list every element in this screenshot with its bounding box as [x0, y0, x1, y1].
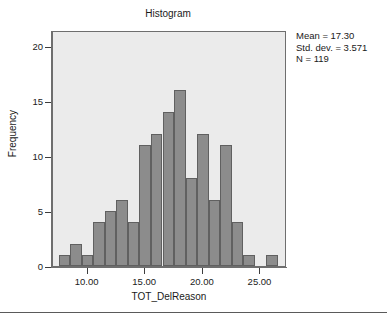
y-axis-tick	[45, 157, 51, 158]
histogram-bar	[82, 255, 94, 266]
histogram-bar	[197, 134, 209, 266]
histogram-bar	[186, 178, 198, 266]
histogram-bar	[174, 90, 186, 266]
stat-n: N = 119	[296, 53, 384, 65]
chart-title: Histogram	[50, 8, 286, 20]
x-axis-tick	[259, 268, 260, 274]
bottom-divider	[0, 312, 387, 313]
histogram-bar	[93, 222, 105, 266]
histogram-bar	[139, 145, 151, 266]
y-axis-title: Frequency	[7, 89, 18, 179]
histogram-bar	[116, 200, 128, 266]
x-axis-tick	[144, 268, 145, 274]
x-axis-tick-label: 10.00	[57, 276, 117, 287]
histogram-bar	[151, 134, 163, 266]
x-axis-tick-label: 20.00	[172, 276, 232, 287]
histogram-bar	[59, 255, 71, 266]
statistics-annotation: Mean = 17.30 Std. dev. = 3.571 N = 119	[296, 30, 384, 65]
y-axis-line	[51, 31, 52, 268]
histogram-bars	[53, 32, 285, 266]
histogram-bar	[128, 222, 140, 266]
histogram-bar	[266, 255, 278, 266]
histogram-bar	[220, 145, 232, 266]
histogram-bar	[70, 244, 82, 266]
x-axis-tick	[202, 268, 203, 274]
histogram-bar	[163, 112, 175, 266]
y-axis-tick-label: 20	[3, 42, 43, 52]
x-axis-tick	[87, 268, 88, 274]
x-axis-tick-label: 15.00	[114, 276, 174, 287]
plot-area	[52, 31, 286, 267]
y-axis-tick	[45, 212, 51, 213]
histogram-bar	[243, 255, 255, 266]
stat-std-dev: Std. dev. = 3.571	[296, 42, 384, 54]
y-axis-tick	[45, 47, 51, 48]
histogram-bar	[232, 222, 244, 266]
x-axis-title: TOT_DelReason	[52, 291, 286, 303]
y-axis-tick-label: 5	[3, 207, 43, 217]
histogram-bar	[105, 211, 117, 266]
y-axis-tick	[45, 267, 51, 268]
histogram-bar	[209, 200, 221, 266]
histogram-figure: Histogram 05101520 Frequency 10.0015.002…	[0, 0, 387, 319]
y-axis-tick	[45, 102, 51, 103]
stat-mean: Mean = 17.30	[296, 30, 384, 42]
x-axis-tick-label: 25.00	[229, 276, 289, 287]
y-axis-tick-label: 0	[3, 262, 43, 272]
